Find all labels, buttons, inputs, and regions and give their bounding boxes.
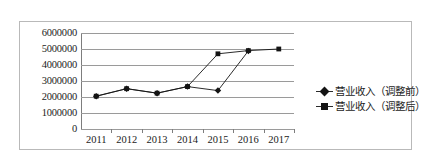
square-marker-icon — [124, 86, 129, 91]
chart-legend: 营业收入（调整前） 营业收入（调整后） — [316, 84, 429, 114]
legend-item-before[interactable]: 营业收入（调整前） — [316, 84, 429, 99]
y-axis-tick-label: 4000000 — [42, 60, 77, 71]
gridline — [81, 129, 294, 130]
x-axis-tick-mark — [233, 129, 234, 133]
square-marker-icon — [246, 48, 251, 53]
x-axis-tick-label: 2014 — [177, 135, 198, 146]
x-axis-tick-label: 2011 — [86, 135, 107, 146]
x-axis-tick-mark — [264, 129, 265, 133]
x-axis-tick-label: 2013 — [147, 135, 168, 146]
y-axis-tick-label: 1000000 — [42, 108, 77, 119]
chart-figure: 0100000020000003000000400000050000006000… — [19, 21, 412, 150]
x-axis-tick-mark — [172, 129, 173, 133]
diamond-marker-icon — [316, 86, 333, 97]
series-plot — [81, 33, 294, 129]
y-axis-tick-label: 3000000 — [42, 76, 77, 87]
y-axis-tick-label: 2000000 — [42, 92, 77, 103]
y-axis-tick-label: 5000000 — [42, 44, 77, 55]
x-axis-tick-mark — [142, 129, 143, 133]
square-marker-icon — [276, 47, 281, 52]
legend-item-label: 营业收入（调整后） — [335, 101, 425, 112]
x-axis-tick-label: 2017 — [268, 135, 289, 146]
square-marker-icon — [94, 94, 99, 99]
legend-item-label: 营业收入（调整前） — [335, 86, 425, 97]
square-marker-icon — [185, 84, 190, 89]
plot-area: 0100000020000003000000400000050000006000… — [81, 33, 294, 129]
y-axis-tick-label: 0 — [72, 124, 77, 135]
square-marker-icon — [316, 101, 333, 112]
legend-item-after[interactable]: 营业收入（调整后） — [316, 99, 429, 114]
x-axis-tick-label: 2016 — [238, 135, 259, 146]
y-axis-tick-label: 6000000 — [42, 28, 77, 39]
square-marker-icon — [216, 51, 221, 56]
x-axis-tick-mark — [203, 129, 204, 133]
x-axis-tick-mark — [294, 129, 295, 133]
series-line — [96, 51, 248, 96]
square-marker-icon — [155, 91, 160, 96]
x-axis-tick-label: 2012 — [116, 135, 137, 146]
x-axis-tick-mark — [111, 129, 112, 133]
x-axis-tick-label: 2015 — [207, 135, 228, 146]
